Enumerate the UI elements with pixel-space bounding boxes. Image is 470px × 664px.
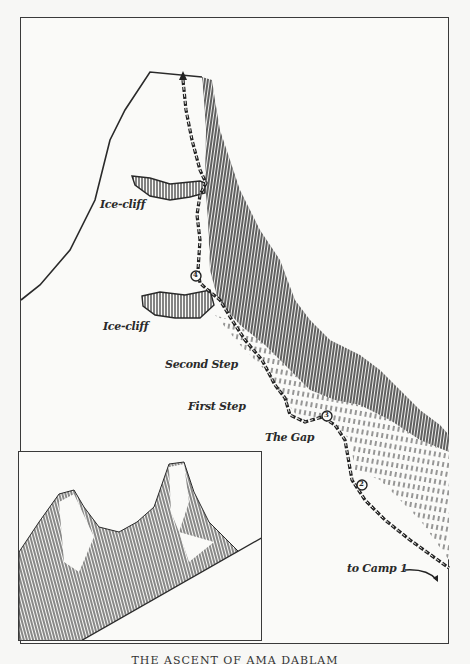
label-to-camp-1: to Camp 1: [347, 562, 407, 575]
label-the-gap: The Gap: [265, 431, 314, 444]
mountain-sketch-icon: [19, 452, 262, 641]
upper-ice-cliff: [132, 176, 205, 200]
to-camp-arrow-icon: [405, 570, 437, 580]
figure-caption: THE ASCENT OF AMA DABLAM: [0, 654, 470, 664]
label-second-step: Second Step: [165, 358, 238, 371]
marker-2-label: 2: [359, 479, 364, 488]
label-ice-cliff-lower: Ice-cliff: [103, 320, 148, 333]
lower-ice-cliff: [142, 290, 214, 318]
label-first-step: First Step: [188, 400, 246, 413]
inset-mountain-sketch: [18, 451, 262, 641]
marker-4-label: 4: [193, 270, 198, 279]
marker-3-label: 3: [324, 410, 329, 419]
label-ice-cliff-upper: Ice-cliff: [100, 198, 145, 211]
east-face-shading: [202, 77, 449, 452]
